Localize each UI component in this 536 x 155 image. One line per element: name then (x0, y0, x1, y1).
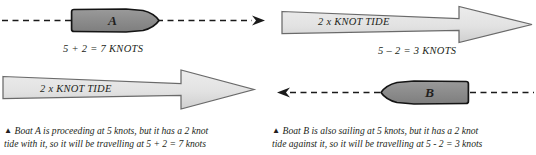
boat-b-letter: B (425, 85, 434, 101)
boat-a-letter: A (108, 13, 117, 29)
caption-b-triangle-icon: ▲ (272, 126, 280, 135)
diagram-canvas: A 5 + 2 = 7 KNOTS 2 x KNOT TIDE 5 – 2 = … (0, 0, 536, 155)
caption-boat-b: ▲Boat B is also sailing at 5 knots, but … (272, 124, 514, 150)
caption-boat-a: ▲Boat A is proceeding at 5 knots, but it… (4, 124, 246, 150)
boat-b-speed-label: 5 – 2 = 3 KNOTS (378, 45, 456, 56)
caption-a-line1: Boat A is proceeding at 5 knots, but it … (15, 125, 209, 136)
tide-label-top-right: 2 x KNOT TIDE (318, 16, 390, 27)
boat-a-speed-label: 5 + 2 = 7 KNOTS (63, 43, 143, 54)
tide-label-bottom-left: 2 x KNOT TIDE (40, 83, 112, 94)
boat-b-course-arrowhead-icon (277, 88, 290, 98)
boat-a-course-arrowhead-icon (252, 16, 265, 26)
caption-a-line2: tide with it, so it will be travelling a… (4, 138, 206, 149)
caption-a-triangle-icon: ▲ (4, 126, 12, 135)
caption-b-line2: tide against it, so it will be travellin… (272, 138, 482, 149)
caption-b-line1: Boat B is also sailing at 5 knots, but i… (283, 125, 479, 136)
